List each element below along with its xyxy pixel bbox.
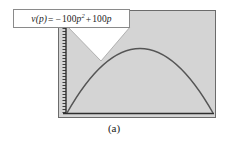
formula-coef-linear: 100 bbox=[92, 15, 107, 25]
figure-caption: (a) bbox=[0, 122, 228, 134]
formula-text: v(p)=−100p2+100p bbox=[31, 12, 111, 24]
formula-callout-box: v(p)=−100p2+100p bbox=[13, 9, 130, 28]
formula-var-linear: p bbox=[107, 15, 112, 25]
formula-minus: − bbox=[55, 15, 62, 25]
formula-coef-quadratic: 100 bbox=[62, 15, 77, 25]
formula-lhs: v(p) bbox=[31, 15, 47, 25]
figure-container: v(p)=−100p2+100p (a) bbox=[0, 0, 228, 142]
formula-equals: = bbox=[47, 15, 54, 25]
